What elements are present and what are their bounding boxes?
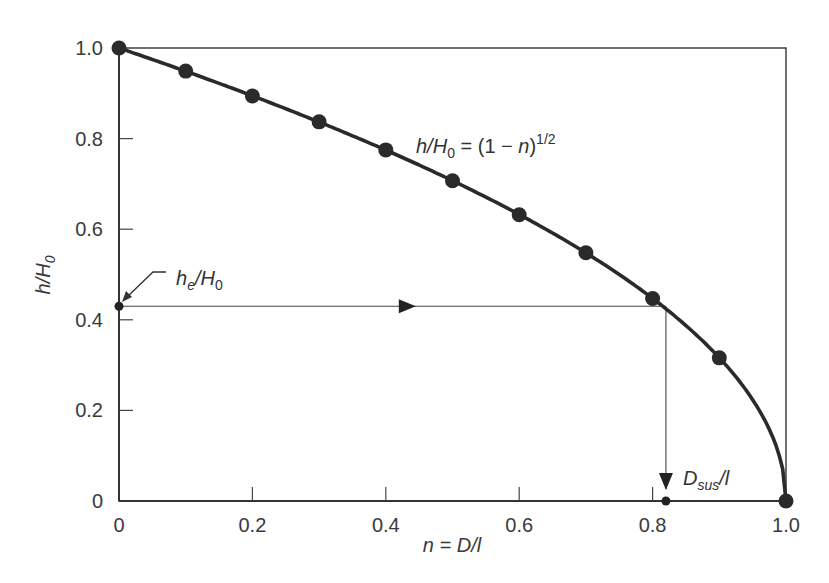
x-axis-label: n = D/l bbox=[423, 534, 482, 556]
data-point bbox=[445, 173, 460, 188]
data-point bbox=[712, 350, 727, 365]
construction-lines bbox=[115, 299, 673, 505]
he-arrow-icon bbox=[127, 272, 166, 297]
he-arrowhead-icon bbox=[122, 291, 132, 302]
data-point bbox=[178, 64, 193, 79]
data-point bbox=[779, 494, 794, 509]
x-tick-label: 0.8 bbox=[639, 514, 667, 536]
curve-line bbox=[119, 48, 786, 501]
data-point bbox=[112, 41, 127, 56]
right-arrowhead-icon bbox=[399, 299, 416, 313]
data-point bbox=[245, 89, 260, 104]
y-tick-label: 0.2 bbox=[75, 399, 103, 421]
y-tick-label: 1.0 bbox=[75, 37, 103, 59]
chart: 00.20.40.60.81.000.20.40.60.81.0 h/H0 n … bbox=[0, 0, 829, 583]
down-arrowhead-icon bbox=[659, 473, 673, 490]
data-point bbox=[578, 245, 593, 260]
x-tick-label: 1.0 bbox=[772, 514, 800, 536]
y-axis-label: h/H0 bbox=[32, 255, 58, 294]
y-tick-label: 0 bbox=[92, 490, 103, 512]
data-point bbox=[378, 142, 393, 157]
plot-border bbox=[119, 48, 786, 501]
he-annotation: he/H0 bbox=[176, 267, 223, 293]
x-tick-label: 0.6 bbox=[505, 514, 533, 536]
he-point bbox=[115, 302, 124, 311]
equation-annotation: h/H0 = (1 − n)1/2 bbox=[416, 131, 556, 161]
x-tick-label: 0.4 bbox=[372, 514, 400, 536]
y-tick-label: 0.8 bbox=[75, 128, 103, 150]
dsus-point bbox=[661, 497, 670, 506]
x-tick-label: 0.2 bbox=[238, 514, 266, 536]
data-point bbox=[312, 114, 327, 129]
data-curve bbox=[119, 48, 786, 501]
data-point bbox=[645, 291, 660, 306]
data-point bbox=[512, 207, 527, 222]
y-tick-label: 0.6 bbox=[75, 218, 103, 240]
y-tick-label: 0.4 bbox=[75, 309, 103, 331]
x-tick-label: 0 bbox=[113, 514, 124, 536]
plot-frame bbox=[119, 48, 786, 501]
dsus-annotation: Dsus/l bbox=[683, 467, 730, 493]
